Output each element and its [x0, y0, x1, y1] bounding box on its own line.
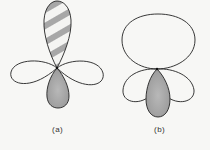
panel-a-orbital — [11, 1, 104, 108]
panel-b-orbital — [122, 14, 195, 117]
panel-a-nucleus — [56, 67, 58, 69]
panel-a-label: (a) — [52, 125, 63, 134]
panel-a-top-lobe-hatched — [44, 1, 71, 68]
panel-b-label: (b) — [154, 125, 165, 134]
panel-b-nucleus — [156, 68, 158, 70]
orbital-figure — [0, 0, 210, 150]
panel-b-top-lobe-large — [122, 14, 195, 69]
panel-b-bottom-lobe-shaded — [146, 69, 170, 117]
